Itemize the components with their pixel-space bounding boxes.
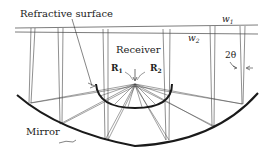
w1-subscript: 1 (230, 18, 234, 25)
receiver-label: Receiver (116, 45, 161, 55)
mirror-arc (17, 93, 258, 146)
refractive-surface-pointer (72, 19, 95, 88)
wavefront-lines (15, 25, 258, 34)
w1-label: w1 (222, 15, 234, 25)
w2-label: w2 (188, 34, 200, 44)
solar-concentrator-diagram: Refractive surface Receiver Mirror w1 w2… (0, 0, 271, 156)
mirror-label: Mirror (26, 127, 60, 137)
receiver-arrow (133, 69, 137, 81)
w1-text: w (222, 14, 230, 24)
r1-subscript: 1 (118, 67, 122, 74)
w2-subscript: 2 (196, 37, 200, 44)
w2-text: w (188, 33, 196, 43)
mirror-pointer (59, 140, 76, 143)
r1-label: R1 (111, 64, 123, 74)
r2-label: R2 (150, 64, 162, 74)
refractive-surface-label: Refractive surface (20, 9, 113, 19)
angle-arrows (230, 62, 253, 70)
angle-label: 2θ (225, 51, 236, 60)
r2-subscript: 2 (157, 67, 161, 74)
